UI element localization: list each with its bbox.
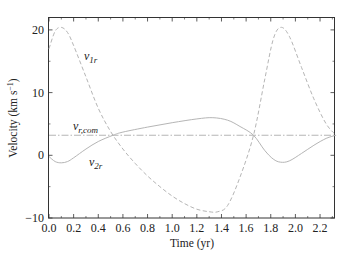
x-tick-label: 0.2 (66, 221, 81, 235)
y-tick-labels: −1001020 (25, 23, 44, 225)
x-tick-label: 1.0 (165, 221, 180, 235)
x-tick-label: 1.8 (263, 221, 278, 235)
y-tick-label: 10 (32, 86, 44, 100)
x-tick-label: 2.0 (288, 221, 303, 235)
label-vcom: vr,com (73, 119, 99, 135)
y-tick-label: 20 (32, 23, 44, 37)
x-tick-labels: 0.00.20.40.60.81.01.21.41.61.82.02.2 (42, 221, 328, 235)
x-tick-label: 2.2 (313, 221, 328, 235)
x-tick-label: 1.6 (239, 221, 254, 235)
axis-ticks (49, 18, 335, 219)
label-v1r: v1r (84, 49, 98, 65)
velocity-chart: 0.00.20.40.60.81.01.21.41.61.82.02.2 −10… (0, 0, 346, 260)
x-tick-label: 0.6 (115, 221, 130, 235)
x-tick-label: 0.4 (91, 221, 106, 235)
label-v2r: v2r (89, 155, 103, 171)
y-tick-label: 0 (38, 148, 44, 162)
y-tick-label: −10 (25, 211, 44, 225)
x-tick-label: 0.8 (140, 221, 155, 235)
x-tick-label: 1.2 (189, 221, 204, 235)
plot-frame (49, 18, 335, 219)
x-tick-label: 1.4 (214, 221, 229, 235)
x-axis-title: Time (yr) (170, 237, 214, 250)
y-axis-title: Velocity (km s−1) (6, 78, 20, 158)
